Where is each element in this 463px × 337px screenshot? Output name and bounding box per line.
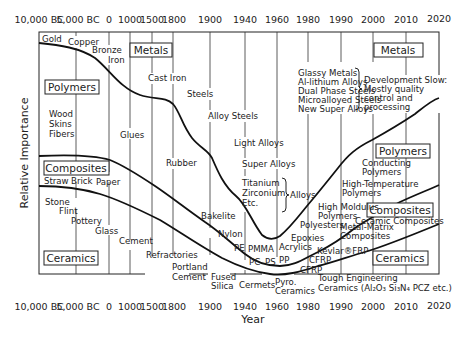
svg-text:PS: PS	[265, 257, 276, 267]
svg-text:1990: 1990	[329, 14, 353, 25]
svg-text:Cermets: Cermets	[239, 280, 276, 290]
svg-text:1800: 1800	[162, 14, 186, 25]
svg-text:Cement: Cement	[119, 236, 153, 246]
svg-text:Alloys: Alloys	[290, 190, 316, 200]
box-metals-right: Metals	[374, 43, 423, 57]
svg-text:2020: 2020	[427, 13, 451, 24]
svg-text:Ceramic Composites: Ceramic Composites	[355, 216, 444, 226]
svg-text:Brick: Brick	[71, 176, 93, 186]
svg-text:Bakelite: Bakelite	[201, 211, 236, 221]
svg-text:2010: 2010	[394, 301, 418, 312]
svg-text:Zirconium: Zirconium	[242, 188, 285, 198]
svg-text:1900: 1900	[198, 301, 222, 312]
svg-text:Polymers: Polymers	[362, 167, 402, 177]
svg-text:Polymers: Polymers	[379, 145, 427, 157]
svg-text:Kevlar®FRP: Kevlar®FRP	[317, 246, 368, 256]
svg-text:PE: PE	[234, 243, 245, 253]
svg-text:Titanium: Titanium	[241, 178, 280, 188]
svg-text:PC: PC	[249, 257, 260, 267]
svg-text:2000: 2000	[361, 301, 385, 312]
box-ceramics-left: Ceramics	[44, 251, 98, 265]
box-polymers-left: Polymers	[45, 80, 99, 94]
svg-text:Paper: Paper	[96, 177, 121, 187]
polymers-annotations: Wood Skins Fibers Glues Rubber Bakelite …	[49, 109, 419, 267]
svg-text:Ceramics: Ceramics	[47, 252, 96, 264]
svg-text:1980: 1980	[296, 301, 320, 312]
svg-text:PMMA: PMMA	[248, 244, 274, 254]
box-metals-left: Metals	[130, 43, 172, 57]
svg-text:Bronze: Bronze	[92, 45, 122, 55]
x-axis-title: Year	[240, 313, 265, 326]
svg-text:Super Alloys: Super Alloys	[242, 159, 296, 169]
svg-text:5,000 BC: 5,000 BC	[56, 14, 100, 25]
svg-text:Rubber: Rubber	[166, 158, 197, 168]
svg-text:1960: 1960	[265, 14, 289, 25]
svg-text:Steels: Steels	[187, 89, 214, 99]
svg-text:Composites: Composites	[45, 162, 107, 174]
svg-text:1960: 1960	[265, 301, 289, 312]
svg-text:1940: 1940	[233, 14, 257, 25]
box-ceramics-right: Ceramics	[373, 251, 428, 265]
svg-text:1900: 1900	[198, 14, 222, 25]
svg-text:processing: processing	[364, 102, 410, 112]
y-axis-title: Relative Importance	[18, 97, 31, 208]
svg-text:Polymers: Polymers	[342, 188, 382, 198]
svg-text:Cast Iron: Cast Iron	[148, 73, 186, 83]
svg-text:Alloy Steels: Alloy Steels	[208, 111, 259, 121]
svg-text:Pottery: Pottery	[71, 216, 102, 226]
svg-text:Polymers: Polymers	[318, 211, 358, 221]
svg-text:Portland: Portland	[172, 262, 208, 272]
svg-text:5,000 BC: 5,000 BC	[56, 301, 100, 312]
svg-text:1000: 1000	[118, 301, 142, 312]
svg-text:0: 0	[106, 301, 112, 312]
svg-text:Metals: Metals	[381, 44, 415, 56]
top-axis-ticks: 10,000 BC 5,000 BC 0 1000 1500 1800 1900…	[14, 13, 451, 25]
svg-text:0: 0	[106, 14, 112, 25]
svg-text:Polyesters: Polyesters	[300, 220, 345, 230]
svg-text:Acrylics: Acrylics	[279, 242, 313, 252]
svg-text:1800: 1800	[162, 301, 186, 312]
svg-text:1000: 1000	[118, 14, 142, 25]
svg-text:Epoxies: Epoxies	[291, 233, 325, 243]
svg-text:Metals: Metals	[134, 44, 168, 56]
svg-text:Ceramics (Al₂O₃ Si₃N₄ PCZ etc.: Ceramics (Al₂O₃ Si₃N₄ PCZ etc.)	[318, 283, 452, 293]
bottom-axis-ticks: 10,000 BC 5,000 BC 0 1000 1500 1800 1900…	[14, 300, 451, 312]
svg-text:Cement: Cement	[172, 272, 206, 282]
svg-text:Tough Engineering: Tough Engineering	[317, 273, 398, 283]
svg-text:PP: PP	[279, 255, 289, 265]
svg-text:Iron: Iron	[108, 55, 125, 65]
svg-text:1500: 1500	[140, 301, 164, 312]
svg-text:Straw: Straw	[44, 176, 69, 186]
svg-text:Fibers: Fibers	[49, 129, 75, 139]
svg-text:1980: 1980	[296, 14, 320, 25]
svg-text:Glues: Glues	[120, 130, 145, 140]
svg-text:Refractories: Refractories	[146, 250, 198, 260]
svg-text:Glass: Glass	[95, 226, 119, 236]
svg-text:1990: 1990	[329, 301, 353, 312]
box-polymers-right: Polymers	[376, 144, 430, 158]
svg-text:CFRP: CFRP	[309, 255, 331, 265]
svg-text:Polymers: Polymers	[48, 81, 96, 93]
svg-text:Light Alloys: Light Alloys	[234, 138, 284, 148]
svg-text:Skins: Skins	[49, 119, 72, 129]
svg-text:Silica: Silica	[211, 281, 234, 291]
svg-text:1940: 1940	[233, 301, 257, 312]
svg-text:Ceramics: Ceramics	[275, 286, 316, 296]
svg-text:2000: 2000	[361, 14, 385, 25]
materials-evolution-chart: Metals Polymers Composites Ceramics Meta…	[0, 0, 463, 337]
svg-text:Nylon: Nylon	[218, 229, 243, 239]
svg-text:2020: 2020	[427, 300, 451, 311]
svg-text:Wood: Wood	[49, 109, 73, 119]
box-composites-left: Composites	[44, 161, 109, 175]
svg-text:Gold: Gold	[42, 34, 62, 44]
svg-text:Etc.: Etc.	[242, 198, 258, 208]
svg-text:2010: 2010	[394, 14, 418, 25]
svg-text:New Super Alloys: New Super Alloys	[298, 104, 373, 114]
svg-text:Composites: Composites	[340, 231, 391, 241]
svg-text:1500: 1500	[140, 14, 164, 25]
svg-text:Ceramics: Ceramics	[376, 252, 425, 264]
svg-text:Flint: Flint	[59, 206, 78, 216]
